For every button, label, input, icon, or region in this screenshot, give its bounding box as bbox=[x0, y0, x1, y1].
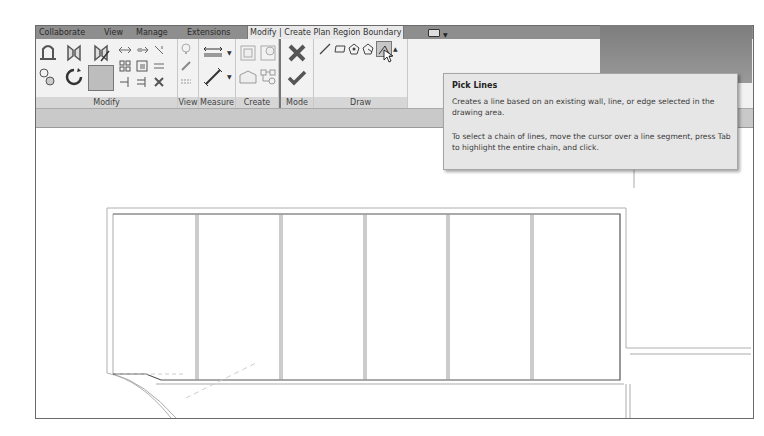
panel-label-mode: Mode bbox=[281, 97, 313, 108]
tab-manage[interactable]: Manage bbox=[134, 26, 170, 39]
cancel-edit-icon[interactable] bbox=[287, 43, 307, 63]
mouse-cursor-icon bbox=[383, 49, 393, 63]
panel-label-modify: Modify bbox=[36, 97, 177, 108]
draw-expand-icon[interactable]: ▲ bbox=[393, 45, 398, 52]
mirror-draw-axis-icon[interactable] bbox=[91, 43, 111, 63]
copy-icon[interactable] bbox=[136, 44, 148, 56]
trim-extend-multiple-icon[interactable] bbox=[136, 76, 148, 88]
panel-label-draw: Draw bbox=[314, 97, 407, 108]
trim-extend-single-icon[interactable] bbox=[119, 76, 131, 88]
scale-icon[interactable] bbox=[136, 60, 148, 72]
linework-icon[interactable] bbox=[180, 76, 192, 88]
create-similar-icon[interactable] bbox=[258, 67, 278, 87]
tooltip-description: Creates a line based on an existing wall… bbox=[452, 96, 734, 118]
measure-dropdown-icon[interactable]: ▼ bbox=[227, 49, 232, 56]
hide-icon[interactable] bbox=[180, 43, 192, 55]
panel-label-measure: Measure bbox=[199, 97, 235, 108]
tab-modify-create-plan-region-boundary[interactable]: Modify | Create Plan Region Boundary bbox=[247, 26, 404, 39]
panel-modify: Modify bbox=[36, 39, 178, 108]
rectangle-icon[interactable] bbox=[334, 43, 346, 55]
tooltip-instructions: To select a chain of lines, move the cur… bbox=[452, 131, 734, 153]
panel-view: View bbox=[178, 39, 199, 108]
dimension-dropdown-icon[interactable]: ▼ bbox=[227, 73, 232, 80]
panel-draw: ▲ Draw bbox=[314, 39, 408, 108]
circumscribed-polygon-icon[interactable] bbox=[362, 43, 374, 55]
delete-icon[interactable] bbox=[153, 76, 165, 88]
create-group-icon[interactable] bbox=[238, 67, 258, 87]
panel-label-view: View bbox=[178, 97, 198, 108]
create-parts-icon[interactable] bbox=[258, 43, 278, 63]
pick-lines-tooltip: Pick Lines Creates a line based on an ex… bbox=[443, 73, 738, 170]
array-icon[interactable] bbox=[119, 60, 131, 72]
quick-access-toggle-icon[interactable] bbox=[428, 29, 440, 37]
tab-view[interactable]: View bbox=[102, 26, 125, 39]
trim-extend-corner-icon[interactable] bbox=[88, 65, 114, 91]
move-icon[interactable] bbox=[119, 44, 131, 56]
create-assembly-icon[interactable] bbox=[238, 43, 258, 63]
inscribed-polygon-icon[interactable] bbox=[348, 43, 360, 55]
line-icon[interactable] bbox=[319, 43, 331, 55]
floor-plan-drawing bbox=[36, 128, 753, 418]
override-graphics-icon[interactable] bbox=[180, 60, 192, 72]
finish-edit-icon[interactable] bbox=[287, 67, 307, 87]
rotate-icon[interactable] bbox=[64, 67, 84, 87]
tooltip-title: Pick Lines bbox=[452, 81, 497, 90]
panel-measure: ▼ ▼ Measure bbox=[199, 39, 236, 108]
tab-collaborate[interactable]: Collaborate bbox=[37, 26, 87, 39]
offset-icon[interactable] bbox=[38, 67, 58, 87]
measure-icon[interactable] bbox=[203, 43, 223, 63]
panel-label-create: Create bbox=[236, 97, 278, 108]
rotate-icon-small[interactable] bbox=[153, 44, 165, 56]
dimension-icon[interactable] bbox=[203, 67, 223, 87]
align-icon[interactable] bbox=[38, 43, 58, 63]
tab-extensions[interactable]: Extensions bbox=[185, 26, 232, 39]
panel-create: Create bbox=[236, 39, 279, 108]
drawing-area[interactable] bbox=[36, 128, 753, 418]
split-icon[interactable] bbox=[153, 60, 165, 72]
panel-mode: Mode bbox=[279, 39, 314, 108]
mirror-pick-axis-icon[interactable] bbox=[64, 43, 84, 63]
